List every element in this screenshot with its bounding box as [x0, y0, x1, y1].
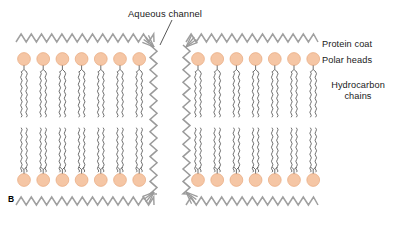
hydrocarbon-chain: [45, 128, 47, 172]
polar-head: [192, 174, 205, 187]
polar-head: [288, 174, 301, 187]
hydrocarbon-chain: [59, 128, 61, 172]
chain-fork: [253, 69, 256, 72]
chain-fork: [195, 69, 198, 72]
hydrocarbon-chain: [310, 128, 312, 172]
hydrocarbon-label-line1: Hydrocarbon: [331, 80, 385, 90]
chain-fork: [43, 69, 46, 72]
polar-head: [18, 53, 31, 66]
chain-fork: [98, 167, 101, 170]
hydrocarbon-chain: [78, 72, 80, 117]
chain-fork: [24, 69, 27, 72]
polar-head: [75, 53, 88, 66]
chain-fork: [195, 167, 198, 170]
chain-fork: [62, 69, 65, 72]
hydrocarbon-label-line2: chains: [344, 91, 371, 101]
aqueous-channel-leader-line: [160, 20, 172, 45]
polar-head: [230, 174, 243, 187]
chain-fork: [120, 69, 123, 72]
polar-head: [307, 174, 320, 187]
polar-head: [192, 53, 205, 66]
hydrocarbon-chain: [271, 72, 273, 117]
chain-fork: [117, 167, 120, 170]
polar-head: [288, 53, 301, 66]
polar-head: [133, 53, 146, 66]
chain-fork: [101, 69, 104, 72]
aqueous-channel-wall-left: [150, 45, 157, 194]
hydrocarbon-chain: [291, 128, 293, 172]
chain-fork: [82, 69, 85, 72]
protein-coat-bottom-left: [16, 197, 154, 205]
polar-head: [56, 53, 69, 66]
polar-head: [133, 174, 146, 187]
hydrocarbon-chain: [238, 72, 240, 117]
chain-fork: [313, 69, 316, 72]
polar-head: [75, 174, 88, 187]
polar-heads-label: Polar heads: [322, 55, 372, 66]
hydrocarbon-chain: [252, 128, 254, 172]
hydrocarbon-chain: [122, 128, 124, 172]
hydrocarbon-chain: [141, 128, 143, 172]
aqueous-channel-wall-right: [183, 45, 190, 194]
hydrocarbon-chain: [40, 128, 42, 172]
chain-fork: [41, 167, 44, 170]
hydrocarbon-chain: [214, 128, 216, 172]
hydrocarbon-chain: [277, 72, 279, 117]
polar-head: [114, 53, 127, 66]
hydrocarbon-chain: [200, 72, 202, 117]
hydrocarbon-chain: [238, 128, 240, 172]
hydrocarbon-chain: [117, 128, 119, 172]
hydrocarbon-chain: [233, 128, 235, 172]
hydrocarbon-chain: [78, 128, 80, 172]
polar-head: [94, 174, 107, 187]
chain-fork: [98, 69, 101, 72]
polar-head: [211, 174, 224, 187]
hydrocarbon-chain: [252, 72, 254, 117]
polar-head: [18, 174, 31, 187]
hydrocarbon-chain: [219, 128, 221, 172]
hydrocarbon-chain: [136, 128, 138, 172]
hydrocarbon-chain: [122, 72, 124, 117]
hydrocarbon-chain: [97, 72, 99, 117]
protein-coat-bottom-right: [186, 197, 318, 205]
chain-fork: [60, 167, 63, 170]
polar-head: [249, 174, 262, 187]
membrane-diagram-svg: [0, 0, 397, 225]
hydrocarbon-chain: [117, 72, 119, 117]
hydrocarbon-chain: [64, 72, 66, 117]
chain-fork: [272, 167, 275, 170]
chain-fork: [139, 69, 142, 72]
polar-head: [56, 174, 69, 187]
hydrocarbon-chain: [45, 72, 47, 117]
membrane-diagram-figure: Aqueous channel Protein coat Polar heads…: [0, 0, 397, 225]
hydrocarbon-chains-label: Hydrocarbonchains: [322, 80, 394, 102]
hydrocarbon-chain: [200, 128, 202, 172]
polar-head: [268, 53, 281, 66]
aqueous-channel-label: Aqueous channel: [128, 8, 202, 19]
chain-fork: [117, 69, 120, 72]
chain-fork: [21, 167, 24, 170]
hydrocarbon-chain: [257, 128, 259, 172]
hydrocarbon-chain: [83, 72, 85, 117]
polar-head: [307, 53, 320, 66]
chain-fork: [236, 69, 239, 72]
chain-fork: [291, 167, 294, 170]
hydrocarbon-chain: [64, 128, 66, 172]
chain-fork: [79, 69, 82, 72]
polar-head: [114, 174, 127, 187]
polar-head: [230, 53, 243, 66]
chain-fork: [311, 69, 314, 72]
protein-coat-label: Protein coat: [322, 39, 372, 50]
polar-head: [249, 53, 262, 66]
panel-letter-b: B: [8, 194, 14, 205]
chain-fork: [79, 167, 82, 170]
chain-fork: [234, 69, 237, 72]
chain-fork: [137, 69, 140, 72]
chain-fork: [275, 69, 278, 72]
hydrocarbon-chain: [136, 72, 138, 117]
hydrocarbon-chain: [310, 72, 312, 117]
chain-fork: [253, 167, 256, 170]
hydrocarbon-chain: [59, 72, 61, 117]
chain-fork: [234, 167, 237, 170]
chain-fork: [256, 69, 259, 72]
